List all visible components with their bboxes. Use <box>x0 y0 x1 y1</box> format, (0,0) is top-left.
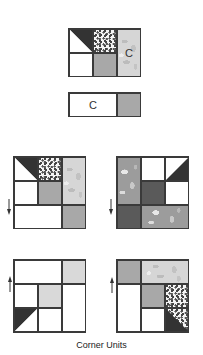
light-gray-cell <box>62 260 86 284</box>
dark-gray-cell <box>141 181 165 205</box>
arrow-left-icon <box>107 21 125 27</box>
light-gray-cell <box>38 284 62 308</box>
speckled-print-cell <box>165 284 189 308</box>
leafy-print-cell-wide <box>141 205 189 229</box>
gray-cell <box>117 260 141 284</box>
gray-cell <box>117 93 141 117</box>
triangle-cell <box>14 157 38 181</box>
white-cell-tall <box>117 284 141 332</box>
white-cell-wide <box>14 260 62 284</box>
gray-cell <box>141 284 165 308</box>
speckled-print-cell <box>93 29 117 53</box>
triangle-cell <box>69 29 93 53</box>
white-cell-tall <box>62 284 86 332</box>
leafy-print-cell <box>62 157 86 205</box>
white-cell <box>14 284 38 308</box>
gray-cell <box>38 181 62 205</box>
triangle-cell <box>165 308 189 332</box>
middle-right-corner-block <box>116 156 189 229</box>
c-strip-block: C <box>68 92 141 117</box>
label-c: C <box>69 93 117 117</box>
triangle-cell <box>14 308 38 332</box>
dark-gray-cell <box>117 205 141 229</box>
speckled-print-cell <box>38 157 62 181</box>
white-cell <box>141 308 165 332</box>
gray-cell <box>62 205 86 229</box>
figure-caption: Corner Units <box>0 340 203 350</box>
white-cell <box>165 181 189 205</box>
bottom-left-corner-block <box>13 259 86 333</box>
top-unit-block: C <box>68 28 141 77</box>
leafy-print-cell <box>117 157 141 205</box>
triangle-cell <box>165 157 189 181</box>
white-cell <box>38 308 62 332</box>
middle-left-corner-block <box>13 156 86 229</box>
gray-cell <box>93 53 117 77</box>
white-cell <box>69 53 93 77</box>
bottom-right-corner-block <box>116 259 189 333</box>
arrow-down-icon <box>108 199 114 215</box>
leafy-print-cell-wide <box>141 260 189 284</box>
white-cell-wide <box>14 205 62 229</box>
label-c: C <box>117 29 141 77</box>
white-cell <box>14 181 38 205</box>
white-cell <box>141 157 165 181</box>
arrow-up-icon <box>109 277 115 293</box>
arrow-down-icon <box>6 199 12 215</box>
